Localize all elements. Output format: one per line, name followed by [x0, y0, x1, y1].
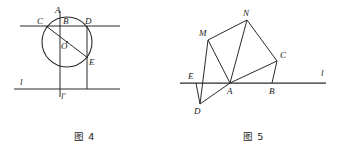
- figure-4-drawing: ABCDOE ll': [14, 5, 120, 101]
- fig4-label-A: A: [54, 5, 61, 15]
- fig4-label-O: O: [61, 41, 68, 51]
- segment-E-D: [196, 83, 200, 104]
- segment-N-C: [247, 20, 277, 61]
- figure-5-drawing: NMCEABD l: [180, 8, 326, 116]
- figure-5-vertex-labels: NMCEABD: [187, 8, 287, 116]
- segment-A-C: [230, 61, 277, 83]
- fig5-label-M: M: [198, 28, 207, 38]
- fig5-label-E: E: [187, 71, 194, 81]
- fig5-line-label-l: l: [321, 68, 324, 78]
- figure-4-caption: 图 4: [0, 129, 169, 143]
- segment-M-N: [208, 20, 247, 40]
- fig5-label-B: B: [269, 86, 275, 96]
- segment-D-A: [200, 83, 230, 104]
- fig5-label-D: D: [193, 106, 201, 116]
- fig4-label-C: C: [37, 16, 44, 26]
- fig5-label-N: N: [242, 8, 250, 18]
- fig4-line-label-l: l: [20, 77, 23, 87]
- figure-5-line-labels: l: [321, 68, 324, 78]
- fig4-label-B: B: [63, 16, 69, 26]
- fig4-line-label-l-prime: l': [61, 91, 67, 101]
- figure-sheet: ABCDOE ll' NMCEABD l 图 4 图 5: [0, 0, 338, 152]
- segment-C-B: [272, 61, 277, 83]
- fig4-label-D: D: [84, 16, 92, 26]
- fig5-label-A: A: [226, 86, 233, 96]
- segment-N-A: [230, 20, 247, 83]
- fig4-label-E: E: [88, 57, 95, 67]
- segment-M-D: [200, 40, 208, 104]
- segment-M-A: [208, 40, 230, 83]
- fig5-label-C: C: [280, 50, 287, 60]
- figure-5-caption: 图 5: [169, 129, 338, 143]
